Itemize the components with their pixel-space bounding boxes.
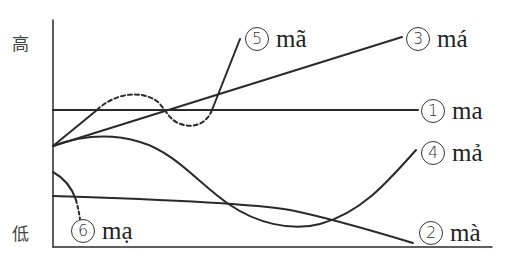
tone-number-6: 6: [71, 219, 95, 243]
tone-number-2: 2: [419, 221, 443, 245]
tone-number-1: 1: [421, 99, 445, 123]
tone-syllable-5: mã: [276, 26, 307, 51]
tone-syllable-6: mạ: [102, 218, 133, 243]
y-axis-high-label: 高: [12, 30, 29, 55]
tone-syllable-3: má: [437, 26, 468, 51]
tone-6-contour-dotted: [76, 200, 80, 219]
tone-syllable-2: mà: [450, 220, 481, 245]
tone-number-4: 4: [421, 141, 445, 165]
tone-3-contour: [53, 37, 402, 146]
y-axis-low-label: 低: [12, 220, 29, 245]
tone-label-6: 6 mạ: [71, 218, 133, 243]
tone-label-2: 2 mà: [419, 220, 481, 245]
tone-5-contour-end: [212, 39, 240, 110]
tone-label-3: 3 má: [406, 26, 468, 51]
tone-number-5: 5: [245, 27, 269, 51]
tone-4-contour: [53, 137, 416, 227]
tone-5-contour-start: [53, 110, 97, 146]
tone-label-4: 4 mả: [421, 140, 483, 165]
tone-syllable-1: ma: [452, 98, 483, 123]
tone-syllable-4: mả: [452, 140, 483, 165]
tone-label-5: 5 mã: [245, 26, 307, 51]
tone-number-3: 3: [406, 27, 430, 51]
tone-label-1: 1 ma: [421, 98, 483, 123]
